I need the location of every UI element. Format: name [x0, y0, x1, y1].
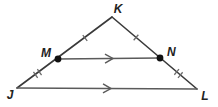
vertex-label-M: M: [41, 46, 52, 60]
segment-KL: [112, 17, 197, 89]
midpoint-dot-M: [55, 56, 62, 63]
segment-JK: [17, 17, 112, 88]
segment-JL: [17, 88, 197, 89]
geometry-diagram-svg: KMNJL: [0, 0, 218, 107]
midpoint-dot-N: [157, 55, 164, 62]
geometry-figure: KMNJL: [0, 0, 218, 107]
vertex-label-J: J: [7, 88, 14, 102]
vertex-label-L: L: [201, 89, 208, 103]
vertex-label-N: N: [167, 45, 176, 59]
segment-MN: [58, 58, 160, 59]
vertex-label-K: K: [114, 2, 124, 16]
